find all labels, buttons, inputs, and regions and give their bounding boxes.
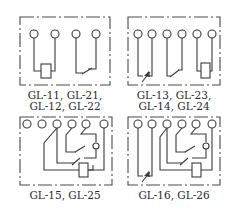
coil-icon xyxy=(41,64,51,78)
coil-icon xyxy=(79,163,88,177)
common-terminal xyxy=(203,143,209,149)
changeover-contact-icon xyxy=(75,146,85,152)
terminal-2 xyxy=(51,30,59,38)
panel-3: GL-15, GL-25 xyxy=(20,117,112,201)
terminal-6 xyxy=(100,120,108,128)
coil-icon xyxy=(201,63,210,78)
coil-icon xyxy=(192,163,201,177)
terminal-6 xyxy=(208,120,216,128)
panel-2-label-line-2: GL-14, GL-24 xyxy=(138,100,210,112)
terminal-3 xyxy=(163,30,171,38)
terminal-5 xyxy=(82,120,90,128)
terminal-2 xyxy=(38,120,46,128)
terminal-1 xyxy=(134,30,142,38)
panel-1-label-line-2: GL-12, GL-22 xyxy=(29,100,100,112)
terminal-3 xyxy=(72,30,80,38)
common-terminal xyxy=(93,143,99,149)
relay-wiring-diagram: GL-11, GL-21, GL-12, GL-22 GL-13, GL-23,… xyxy=(0,0,235,212)
terminal-2 xyxy=(148,30,156,38)
terminal-4 xyxy=(178,120,186,128)
terminal-4 xyxy=(68,120,76,128)
panel-4: GL-16, GL-26 xyxy=(128,117,220,201)
terminal-2 xyxy=(148,120,156,128)
terminal-3 xyxy=(163,120,171,128)
panel-4-label: GL-16, GL-26 xyxy=(138,189,210,201)
flag-indicator-icon xyxy=(144,171,150,177)
terminal-6 xyxy=(208,30,216,38)
panel-1: GL-11, GL-21, GL-12, GL-22 xyxy=(20,17,110,112)
normally-open-contact-icon xyxy=(82,68,92,74)
terminal-1 xyxy=(23,120,31,128)
terminal-3 xyxy=(53,120,61,128)
panel-2: GL-13, GL-23, GL-14, GL-24 xyxy=(128,17,220,112)
terminal-1 xyxy=(30,30,38,38)
terminal-5 xyxy=(193,30,201,38)
changeover-contact-icon xyxy=(185,146,195,152)
normally-open-contact-icon xyxy=(170,70,179,77)
panel-3-label: GL-15, GL-25 xyxy=(29,189,100,201)
normally-open-contact-icon xyxy=(180,158,188,165)
terminal-4 xyxy=(178,30,186,38)
terminal-5 xyxy=(192,120,200,128)
flag-indicator-icon xyxy=(144,71,150,77)
terminal-4 xyxy=(92,30,100,38)
terminal-1 xyxy=(134,120,142,128)
